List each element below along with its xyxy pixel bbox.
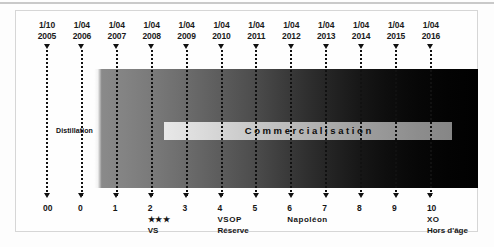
- date-year: 2016: [411, 31, 451, 42]
- page-top-rule: [0, 2, 494, 4]
- bottom-tick-arrow: [44, 193, 50, 198]
- age-label-group: 10XOHors d'âge: [427, 203, 481, 236]
- gridline: [290, 50, 292, 198]
- gridline: [186, 50, 188, 198]
- gridline: [325, 50, 327, 198]
- bottom-tick-arrow: [113, 193, 119, 198]
- bottom-tick-arrow: [253, 193, 259, 198]
- bottom-tick-arrow: [183, 193, 189, 198]
- top-tick-arrow: [148, 44, 154, 49]
- top-tick-arrow: [358, 44, 364, 49]
- top-tick-arrow: [183, 44, 189, 49]
- scanned-page: Commercialisation Distillation 1/1020051…: [0, 0, 494, 247]
- gridline: [360, 50, 362, 198]
- age-grade-sub: Réserve: [218, 225, 272, 236]
- top-tick-arrow: [218, 44, 224, 49]
- bottom-tick-arrow: [393, 193, 399, 198]
- gridline: [430, 50, 432, 198]
- top-tick-arrow: [288, 44, 294, 49]
- bottom-tick-arrow: [288, 193, 294, 198]
- gridline: [395, 50, 397, 198]
- top-tick-arrow: [44, 44, 50, 49]
- age-grade: VSOP: [218, 214, 272, 225]
- top-tick-arrow: [78, 44, 84, 49]
- date-label: 1/042016: [411, 20, 451, 41]
- age-grade: ★★★: [148, 214, 202, 225]
- gridline: [116, 50, 118, 198]
- bottom-tick-arrow: [148, 193, 154, 198]
- bottom-tick-arrow: [427, 193, 433, 198]
- chart-frame: Commercialisation Distillation 1/1020051…: [15, 10, 478, 232]
- top-tick-arrow: [427, 44, 433, 49]
- distillation-label: Distillation: [56, 127, 93, 134]
- age-grade-sub: Hors d'âge: [427, 225, 481, 236]
- gridline: [255, 50, 257, 198]
- commercialisation-label: Commercialisation: [164, 122, 452, 140]
- gridline: [46, 50, 48, 198]
- date-day: 1/04: [411, 20, 451, 31]
- gridline: [81, 50, 83, 198]
- top-tick-arrow: [393, 44, 399, 49]
- gridline: [221, 50, 223, 198]
- age-number: 10: [427, 203, 481, 214]
- bottom-tick-arrow: [358, 193, 364, 198]
- gridline: [151, 50, 153, 198]
- bottom-tick-arrow: [218, 193, 224, 198]
- age-grade: XO: [427, 214, 481, 225]
- bottom-tick-arrow: [78, 193, 84, 198]
- top-tick-arrow: [323, 44, 329, 49]
- bottom-tick-arrow: [323, 193, 329, 198]
- top-tick-arrow: [253, 44, 259, 49]
- age-grade: Napoléon: [287, 214, 341, 225]
- top-tick-arrow: [113, 44, 119, 49]
- age-grade-sub: VS: [148, 225, 202, 236]
